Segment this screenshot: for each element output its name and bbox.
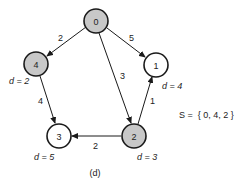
node-3: 3 [47,124,71,148]
node-2-label: 2 [131,132,136,142]
node-2: 2 [122,124,146,148]
edges [40,27,152,136]
distance-label-node-3: d = 5 [34,152,55,162]
distance-label-node-4: d = 2 [9,76,29,86]
node-1-label: 1 [153,61,158,71]
weight-0-1: 5 [129,33,134,43]
edge-0-1 [107,28,145,57]
node-0-label: 0 [93,17,98,27]
node-0: 0 [84,9,108,33]
weight-4-3: 4 [38,96,43,106]
weight-0-2: 3 [120,71,125,81]
weight-2-1: 1 [150,96,155,106]
graph-diagram: 2 5 3 4 1 2 0 1 2 3 4 d = 2 d = 4 d = 5 … [0,0,245,178]
figure-caption: (d) [90,168,101,178]
edge-0-2 [99,33,131,123]
node-4-label: 4 [33,60,38,70]
edge-0-4 [47,27,86,56]
weight-2-3: 2 [93,141,98,151]
visited-set-label: S = { 0, 4, 2 } [179,110,234,120]
weight-0-4: 2 [58,33,63,43]
node-1: 1 [144,53,168,77]
node-3-label: 3 [56,132,61,142]
node-4: 4 [24,52,48,76]
distance-label-node-1: d = 4 [162,81,182,91]
distance-label-node-2: d = 3 [137,152,157,162]
